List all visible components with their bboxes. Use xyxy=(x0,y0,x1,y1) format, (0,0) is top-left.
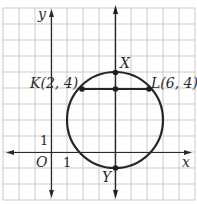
grid xyxy=(3,8,195,200)
x-tick-one-label: 1 xyxy=(63,155,71,170)
point-l-label: L(6, 4) xyxy=(150,75,197,91)
point-x-label: X xyxy=(119,55,131,71)
y-axis-top-arrow-icon xyxy=(49,9,54,17)
origin-label: O xyxy=(36,154,48,170)
point-midpoint xyxy=(113,86,119,92)
point-y-label: Y xyxy=(102,169,113,185)
y-tick-one-label: 1 xyxy=(40,133,48,148)
point-y xyxy=(113,165,119,171)
x-axis-left-arrow-icon xyxy=(6,150,14,155)
point-k xyxy=(79,86,85,92)
point-k-label: K(2, 4) xyxy=(29,75,78,91)
line-xy-top-arrow-icon xyxy=(113,5,118,14)
y-axis-label: y xyxy=(37,6,47,22)
y-axis-bottom-arrow-icon xyxy=(49,190,54,198)
coordinate-diagram: y x O 1 1 K(2, 4) L(6, 4) X Y xyxy=(0,0,197,204)
x-axis-label: x xyxy=(182,154,190,170)
point-x xyxy=(113,70,119,76)
line-xy-bottom-arrow-icon xyxy=(113,190,118,199)
